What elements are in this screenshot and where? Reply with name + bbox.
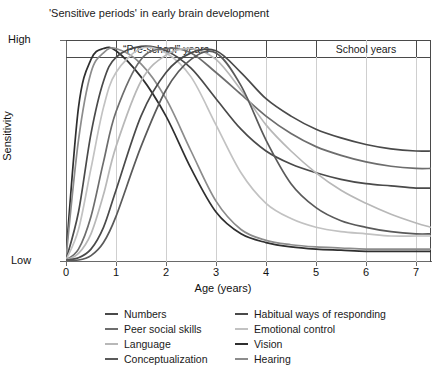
x-tick-label-2: 2: [156, 266, 176, 279]
plot-area: “Pre-school” yearsSchool years: [66, 40, 431, 262]
legend-swatch-icon: [235, 343, 248, 345]
legend-swatch-icon: [235, 313, 248, 315]
legend-swatch-icon: [105, 328, 118, 330]
legend-item-label: Hearing: [254, 353, 291, 365]
legend-item[interactable]: Language: [105, 336, 235, 351]
legend-item-label: Language: [124, 338, 171, 350]
legend-item-label: Vision: [254, 338, 282, 350]
x-tick-label-7: 7: [406, 266, 426, 279]
legend-swatch-icon: [105, 358, 118, 360]
curve-numbers: [66, 49, 431, 260]
y-axis-title: Sensitivity: [1, 71, 13, 201]
legend-item-label: Conceptualization: [124, 353, 207, 365]
chart-page: 'Sensitive periods' in early brain devel…: [0, 0, 446, 368]
sensitivity-curves: [66, 40, 431, 262]
x-tick-label-4: 4: [256, 266, 276, 279]
page-title: 'Sensitive periods' in early brain devel…: [49, 6, 269, 20]
legend-item[interactable]: Numbers: [105, 306, 235, 321]
legend-item[interactable]: Hearing: [235, 351, 435, 366]
legend-swatch-icon: [105, 343, 118, 345]
chart-legend: NumbersHabitual ways of respondingPeer s…: [105, 306, 435, 366]
curve-emotional-control: [66, 47, 431, 260]
x-tick-label-3: 3: [206, 266, 226, 279]
legend-item-label: Emotional control: [254, 323, 335, 335]
legend-swatch-icon: [235, 328, 248, 330]
x-tick-label-6: 6: [356, 266, 376, 279]
legend-item[interactable]: Conceptualization: [105, 351, 235, 366]
legend-item-label: Habitual ways of responding: [254, 308, 386, 320]
legend-item-label: Numbers: [124, 308, 167, 320]
curve-conceptualization: [66, 51, 431, 260]
x-axis-title: Age (years): [0, 282, 446, 294]
x-tick-label-1: 1: [106, 266, 126, 279]
legend-swatch-icon: [235, 358, 248, 360]
x-tick-label-0: 0: [56, 266, 76, 279]
legend-item-label: Peer social skills: [124, 323, 202, 335]
legend-item[interactable]: Habitual ways of responding: [235, 306, 435, 321]
legend-item[interactable]: Emotional control: [235, 321, 435, 336]
curve-vision: [66, 47, 431, 255]
legend-item[interactable]: Peer social skills: [105, 321, 235, 336]
curve-habitual-ways-of-responding: [66, 46, 431, 260]
legend-swatch-icon: [105, 313, 118, 315]
x-tick-label-5: 5: [306, 266, 326, 279]
legend-item[interactable]: Vision: [235, 336, 435, 351]
